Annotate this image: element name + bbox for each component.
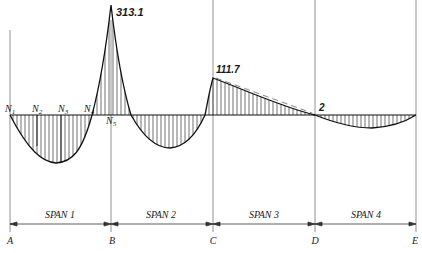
span-label-4: SPAN 4: [351, 209, 381, 220]
node-label-n4: N4: [83, 103, 95, 116]
point-label-d: 2: [318, 102, 325, 113]
peak-label-c: 111.7: [216, 64, 240, 75]
support-label-c: C: [210, 235, 217, 246]
span-label-2: SPAN 2: [146, 209, 176, 220]
span4-sagging-area: [315, 115, 416, 128]
support-label-d: D: [310, 235, 319, 246]
span-label-3: SPAN 3: [249, 209, 279, 220]
node-label-n1: N1: [4, 103, 15, 116]
support-label-b: B: [109, 235, 115, 246]
peak-label-b: 313.1: [116, 6, 144, 18]
support-b-hogging-area: [92, 5, 131, 115]
span-label-1: SPAN 1: [45, 209, 75, 220]
support-label-e: E: [411, 235, 418, 246]
span1-sagging-area: [10, 115, 92, 163]
moment-diagram: 313.1 111.7 2 N1 N2 N3 N4 N5 SPAN 1 SPAN…: [0, 0, 422, 253]
support-label-a: A: [6, 235, 14, 246]
node-label-n2: N2: [31, 103, 43, 116]
node-label-n3: N3: [57, 103, 69, 116]
